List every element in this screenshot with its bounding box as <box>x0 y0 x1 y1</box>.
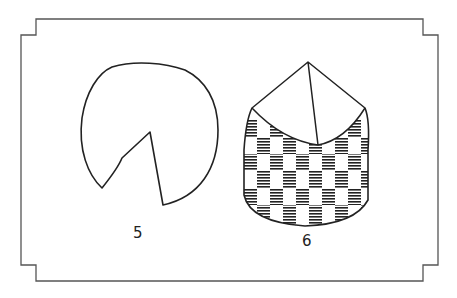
figure-5-label: 5 <box>133 224 143 242</box>
frame-border <box>21 19 438 281</box>
diagram-canvas <box>0 0 457 298</box>
figure-6-label: 6 <box>302 232 312 250</box>
figure-6-cylinder <box>240 62 375 230</box>
figure-5-pie-shape <box>81 63 218 205</box>
